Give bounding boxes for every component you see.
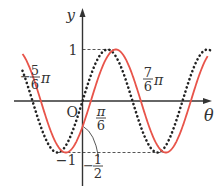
sign: − [20,69,31,84]
numerator: 1 [94,152,102,167]
annotation-neg-half: − 1 2 [83,152,103,181]
numerator: 7 [144,65,152,80]
numerator: π [96,104,106,119]
y-tick-label: −1 [56,152,77,168]
y-axis-label: y [66,6,76,24]
denominator: 6 [144,79,152,94]
y-axis-arrow [80,8,86,17]
x-axis-arrow [203,98,212,104]
denominator: 6 [97,118,105,133]
sign: − [83,158,94,173]
y-tick-label: 1 [69,42,78,58]
pi-suffix: π [153,72,164,88]
origin-label: O [67,104,78,120]
denominator: 2 [94,166,102,181]
denominator: 6 [31,77,39,92]
annotation-neg-five-sixths-pi: − 5 6 π [20,63,51,92]
x-axis-label: θ [204,106,214,125]
chart: y θ O 1 −1 − 5 6 π 7 6 π π 6 − 1 2 [0,0,224,189]
annotation-seven-sixths-pi: 7 6 π [143,65,164,94]
numerator: 5 [31,63,39,78]
annotation-pi-sixth: π 6 [96,104,106,133]
pi-suffix: π [40,70,51,86]
